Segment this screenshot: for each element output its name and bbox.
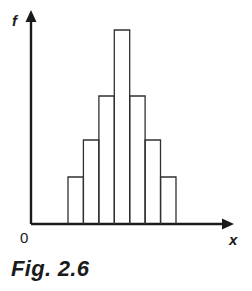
histogram-chart: f 0 x [0, 0, 252, 252]
histogram-bar [68, 177, 83, 224]
y-axis-arrowhead-icon [26, 10, 37, 22]
histogram-svg: f 0 x [0, 0, 252, 252]
histogram-bar [99, 96, 114, 224]
x-axis-label: x [228, 231, 238, 248]
histogram-bar [145, 140, 160, 224]
histogram-bar [114, 30, 129, 224]
figure-container: f 0 x Fig. 2.6 [0, 0, 252, 291]
x-axis-arrowhead-icon [222, 219, 234, 230]
figure-caption: Fig. 2.6 [11, 258, 89, 280]
y-axis-label: f [12, 12, 19, 29]
histogram-bar [83, 140, 98, 224]
histogram-bar [161, 177, 176, 224]
histogram-bar [130, 96, 145, 224]
origin-label: 0 [20, 229, 28, 246]
